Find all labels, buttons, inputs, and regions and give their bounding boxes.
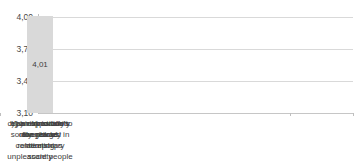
category-label: e) a risk to one's own privacy [0,118,80,140]
gridline [38,81,353,82]
x-axis-tick [290,113,291,116]
x-axis-tick [353,113,354,116]
bar-chart: 4,00 3,70 3,40 3,10 3,34 a) intrinsicall… [0,0,361,168]
gridline [38,49,353,50]
gridline [38,17,353,18]
bar-column: 4,01 e) a risk to one's own privacy [0,0,80,168]
bar-value-label: 4,01 [0,60,80,70]
x-axis-baseline [38,113,353,114]
